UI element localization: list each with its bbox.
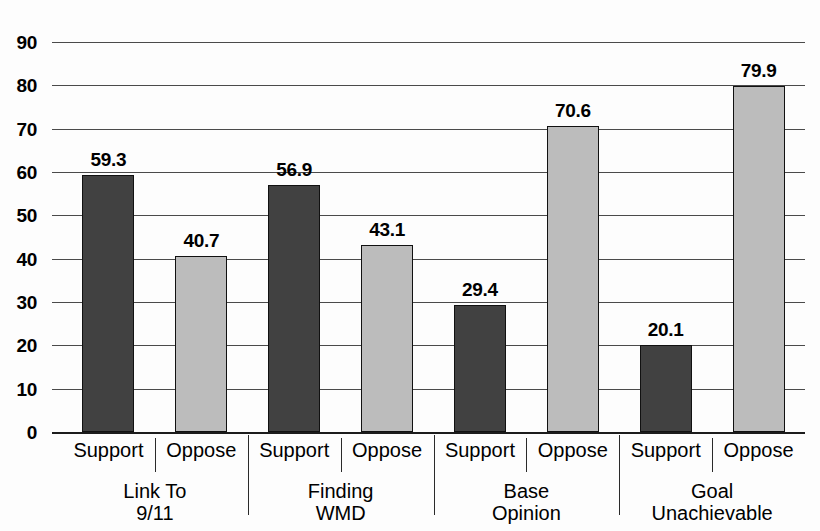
gridline-80 (62, 85, 805, 86)
axis-separator-minor (526, 438, 527, 472)
bar-oppose-group2[interactable] (547, 126, 599, 432)
y-tick-mark-30 (52, 302, 63, 303)
gridline-20 (62, 345, 805, 346)
plot-area: 010203040506070809059.340.756.943.129.47… (62, 42, 805, 432)
y-tick-label-80: 80 (0, 76, 37, 95)
y-tick-label-20: 20 (0, 336, 37, 355)
bar-chart: 010203040506070809059.340.756.943.129.47… (0, 0, 820, 531)
gridline-90 (62, 42, 805, 43)
y-tick-label-40: 40 (0, 249, 37, 268)
group-label-line1: Link To (123, 480, 186, 502)
y-tick-label-60: 60 (0, 163, 37, 182)
bar-support-group3[interactable] (640, 345, 692, 432)
gridline-30 (62, 302, 805, 303)
bar-value-label: 20.1 (626, 320, 706, 339)
bar-support-group0[interactable] (82, 175, 134, 432)
bar-oppose-group0[interactable] (175, 256, 227, 432)
bar-value-label: 59.3 (68, 150, 148, 169)
bar-value-label: 43.1 (347, 220, 427, 239)
bar-oppose-group3[interactable] (733, 86, 785, 432)
y-tick-mark-60 (52, 172, 63, 173)
gridline-60 (62, 172, 805, 173)
y-tick-label-90: 90 (0, 33, 37, 52)
bar-value-label: 40.7 (161, 231, 241, 250)
y-tick-label-30: 30 (0, 293, 37, 312)
axis-separator-minor (341, 438, 342, 472)
bar-value-label: 79.9 (719, 61, 799, 80)
y-tick-mark-70 (52, 129, 63, 130)
y-tick-label-70: 70 (0, 119, 37, 138)
y-tick-label-50: 50 (0, 206, 37, 225)
group-label-line1: Base (504, 480, 550, 502)
y-tick-mark-20 (52, 345, 63, 346)
axis-separator-minor (712, 438, 713, 472)
gridline-70 (62, 129, 805, 130)
bar-oppose-group1[interactable] (361, 245, 413, 432)
bar-support-group2[interactable] (454, 305, 506, 432)
bar-value-label: 70.6 (533, 101, 613, 120)
x-axis-label-band: SupportOpposeSupportOpposeSupportOpposeS… (0, 434, 820, 531)
gridline-50 (62, 215, 805, 216)
x-axis-group-label: GoalUnachievable (602, 480, 820, 525)
y-tick-mark-90 (52, 42, 63, 43)
bar-support-group1[interactable] (268, 185, 320, 432)
group-label-line2: Unachievable (602, 502, 820, 524)
gridline-10 (62, 389, 805, 390)
x-axis-series-label-oppose: Oppose (699, 440, 819, 460)
bar-value-label: 56.9 (254, 160, 334, 179)
y-tick-mark-10 (52, 389, 63, 390)
gridline-40 (62, 259, 805, 260)
group-label-line1: Goal (691, 480, 733, 502)
y-tick-mark-50 (52, 215, 63, 216)
bar-value-label: 29.4 (440, 280, 520, 299)
y-tick-mark-40 (52, 259, 63, 260)
group-label-line1: Finding (308, 480, 374, 502)
axis-separator-minor (155, 438, 156, 472)
y-tick-label-10: 10 (0, 379, 37, 398)
y-tick-mark-80 (52, 85, 63, 86)
